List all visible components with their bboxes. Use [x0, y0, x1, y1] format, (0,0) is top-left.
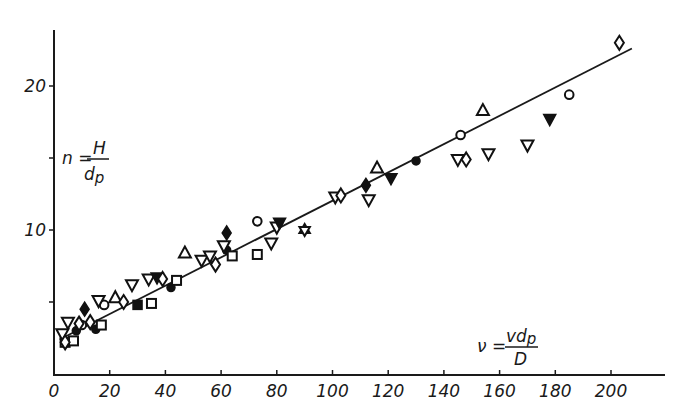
regression-line: [60, 49, 632, 340]
y-axis-title: n = H dp: [62, 138, 109, 187]
scatter-chart: 0204060801001201401601802001020 n = H dp…: [0, 0, 683, 415]
circle-marker: [412, 157, 420, 165]
x-tick-label: 60: [210, 381, 232, 401]
x-tick-label: 0: [49, 381, 60, 401]
data-points: [56, 36, 624, 350]
x-tick-label: 140: [428, 381, 460, 401]
y-title-denominator: dp: [84, 164, 104, 187]
square-marker: [69, 336, 78, 345]
triangle-down-marker: [62, 318, 74, 329]
x-tick-label: 40: [155, 381, 177, 401]
diamond-marker: [361, 178, 370, 192]
circle-marker: [456, 131, 465, 140]
y-tick-label: 20: [24, 76, 46, 96]
triangle-down-marker: [126, 280, 138, 291]
x-title-numerator: vdp: [506, 326, 536, 348]
circle-marker: [253, 217, 262, 226]
square-marker: [147, 299, 156, 308]
triangle-down-marker: [385, 174, 397, 185]
star-of-david-marker: [299, 224, 309, 236]
triangle-down-marker: [363, 195, 375, 206]
x-tick-label: 200: [595, 381, 627, 401]
y-title-numerator: H: [93, 138, 106, 158]
triangle-down-marker: [482, 149, 494, 160]
axis-ticks: 0204060801001201401601802001020: [24, 76, 627, 401]
square-marker: [253, 250, 262, 259]
triangle-down-marker: [521, 141, 533, 152]
y-tick-label: 10: [24, 220, 46, 240]
x-tick-label: 160: [483, 381, 515, 401]
x-axis-title: ν = vdp D: [477, 326, 538, 369]
x-tick-label: 20: [99, 381, 121, 401]
square-marker: [228, 251, 237, 260]
triangle-down-marker: [544, 115, 556, 126]
x-title-lhs: ν =: [477, 336, 506, 356]
fit-line: [60, 49, 632, 340]
x-tick-label: 180: [539, 381, 571, 401]
diamond-marker: [119, 295, 128, 309]
triangle-down-marker: [265, 238, 277, 249]
square-marker: [133, 300, 142, 309]
circle-marker: [565, 90, 574, 99]
diamond-marker: [80, 302, 89, 316]
x-tick-label: 100: [316, 381, 348, 401]
triangle-up-marker: [477, 104, 489, 115]
axes: [53, 30, 665, 375]
triangle-up-marker: [179, 247, 191, 258]
triangle-up-marker: [371, 162, 383, 173]
x-tick-label: 80: [266, 381, 288, 401]
x-tick-label: 120: [372, 381, 404, 401]
diamond-marker: [615, 36, 624, 50]
square-marker: [97, 321, 106, 330]
x-title-denominator: D: [514, 349, 527, 369]
diamond-marker: [222, 226, 231, 240]
square-marker: [172, 276, 181, 285]
